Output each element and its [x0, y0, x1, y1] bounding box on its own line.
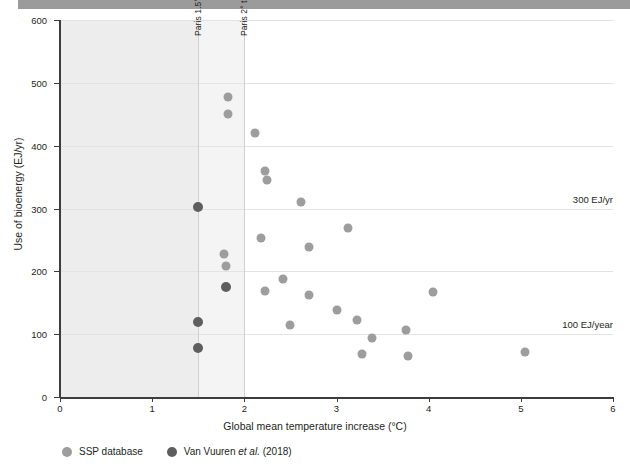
y-tick-label-100: 100 — [0, 329, 47, 340]
legend-label: SSP database — [79, 446, 143, 457]
gridline-y-500 — [60, 83, 613, 84]
annotation-2: 100 EJ/year — [562, 319, 613, 330]
x-tick-3 — [337, 397, 338, 402]
x-tick-label-4: 4 — [426, 403, 431, 414]
data-point — [221, 262, 230, 271]
y-tick-label-600: 600 — [0, 15, 47, 26]
legend-item-2[interactable]: Van Vuuren et al. (2018) — [167, 446, 292, 457]
data-point — [286, 320, 295, 329]
data-point — [251, 129, 260, 138]
x-tick-2 — [244, 397, 245, 402]
target-line-2 — [244, 20, 245, 397]
x-tick-label-5: 5 — [518, 403, 523, 414]
gridline-y-600 — [60, 20, 613, 21]
y-tick-600 — [54, 20, 60, 21]
x-axis-title: Global mean temperature increase (°C) — [0, 420, 630, 432]
x-tick-4 — [429, 397, 430, 402]
y-tick-200 — [54, 271, 60, 272]
gridline-y-200 — [60, 271, 613, 272]
data-point — [193, 317, 203, 327]
data-point — [352, 315, 361, 324]
data-point — [304, 243, 313, 252]
data-point — [223, 92, 232, 101]
data-point — [223, 110, 232, 119]
chart-legend: SSP databaseVan Vuuren et al. (2018) — [62, 446, 292, 457]
target-line-label-1: Paris 1.5° target — [193, 0, 203, 36]
y-tick-500 — [54, 83, 60, 84]
data-point — [279, 274, 288, 283]
x-tick-1 — [152, 397, 153, 402]
x-tick-5 — [521, 397, 522, 402]
x-tick-label-0: 0 — [57, 403, 62, 414]
x-tick-label-1: 1 — [150, 403, 155, 414]
y-tick-300 — [54, 209, 60, 210]
data-point — [521, 347, 530, 356]
data-point — [193, 343, 203, 353]
data-point — [260, 287, 269, 296]
x-tick-0 — [60, 397, 61, 402]
legend-marker-icon — [167, 447, 177, 457]
y-axis-title: Use of bioenergy (EJ/yr) — [12, 94, 24, 294]
gridline-y-400 — [60, 146, 613, 147]
legend-label: Van Vuuren et al. (2018) — [184, 446, 292, 457]
data-point — [401, 325, 410, 334]
data-point — [404, 351, 413, 360]
y-tick-400 — [54, 146, 60, 147]
data-point — [256, 234, 265, 243]
data-point — [263, 176, 272, 185]
x-tick-label-3: 3 — [334, 403, 339, 414]
x-tick-6 — [613, 397, 614, 402]
annotation-1: 300 EJ/yr — [573, 193, 613, 204]
data-point — [304, 290, 313, 299]
x-tick-label-2: 2 — [242, 403, 247, 414]
data-point — [260, 167, 269, 176]
legend-item-1[interactable]: SSP database — [62, 446, 143, 457]
x-tick-label-6: 6 — [610, 403, 615, 414]
legend-marker-icon — [62, 447, 72, 457]
data-point — [343, 223, 352, 232]
gridline-y-100 — [60, 334, 613, 335]
data-point — [220, 249, 229, 258]
data-point — [332, 306, 341, 315]
data-point — [358, 349, 367, 358]
y-tick-label-0: 0 — [0, 392, 47, 403]
y-tick-label-500: 500 — [0, 77, 47, 88]
data-point — [429, 288, 438, 297]
data-point — [367, 333, 376, 342]
data-point — [297, 198, 306, 207]
data-point — [221, 282, 231, 292]
plot-area: Paris 1.5° targetParis 2° target — [60, 20, 613, 397]
y-tick-100 — [54, 334, 60, 335]
target-line-label-2: Paris 2° target — [239, 0, 249, 36]
gridline-y-300 — [60, 209, 613, 210]
bioenergy-temperature-scatter-chart: Paris 1.5° targetParis 2° target 0123456… — [0, 0, 630, 473]
data-point — [193, 202, 203, 212]
y-tick-0 — [54, 397, 60, 398]
